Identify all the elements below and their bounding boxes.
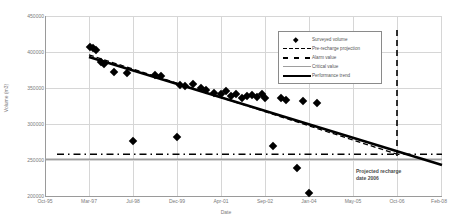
data-point [305,189,313,197]
data-point [123,69,131,77]
data-point [261,94,269,102]
gray-line-icon [282,62,312,71]
data-point [92,46,100,54]
data-point [173,133,181,141]
thick-line-icon [282,71,312,80]
data-point [110,68,118,76]
legend-label: Critical value [312,64,338,70]
volume-vs-date-chart: 450000 400000 350000 300000 250000 20000… [0,0,452,224]
legend-item-performance-trend: Performance trend [282,71,379,80]
legend-item-pre-recharge-projection: Pre-recharge projection [282,44,379,53]
data-point [299,97,307,105]
legend-item-alarm-value: Alarm value [282,53,379,62]
legend-label: Performance trend [312,73,350,79]
projected-recharge-annotation: Projected recharge date 2006 [356,168,448,182]
data-point [282,96,290,104]
dash-dot-line-icon [282,53,312,62]
data-point [157,72,165,80]
data-point [129,137,137,145]
legend-label: Surveyed volume [312,37,348,43]
diamond-marker-icon [282,35,312,44]
legend-item-surveyed-volume: Surveyed volume [282,35,379,44]
legend-label: Pre-recharge projection [312,46,360,52]
chart-legend: Surveyed volume Pre-recharge projection … [278,31,382,84]
data-point [313,99,321,107]
annotation-line-1: Projected recharge [356,168,448,175]
data-point [293,164,301,172]
legend-label: Alarm value [312,55,336,61]
data-point [100,60,108,68]
annotation-line-2: date 2006 [356,175,448,182]
dashed-line-icon [282,44,312,53]
legend-item-critical-value: Critical value [282,62,379,71]
data-point [269,142,277,150]
